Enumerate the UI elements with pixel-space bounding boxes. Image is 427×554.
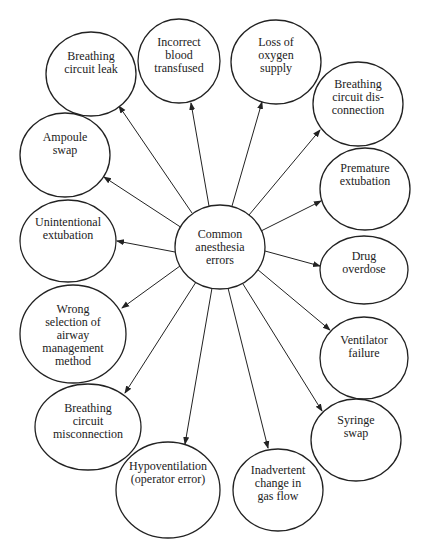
node-syringe-swap <box>311 399 401 481</box>
arrow-edge-loss-of-oxygen-supply <box>232 102 262 206</box>
label-line: method <box>55 355 91 368</box>
node-incorrect-blood-transfused-label: Incorrectbloodtransfused <box>138 36 220 75</box>
label-line: swap <box>344 427 369 440</box>
node-breathing-circuit-leak-label: Breathingcircuit leak <box>46 50 136 76</box>
label-line: connection <box>332 104 385 117</box>
node-hypoventilation <box>116 442 220 538</box>
node-unintentional-extubation-label: Unintentionalextubation <box>20 216 116 242</box>
label-line: Common <box>198 228 243 241</box>
center-node-common-anesthesia-errors-label: Commonanesthesiaerrors <box>175 228 265 267</box>
arrow-edge-hypoventilation <box>185 288 212 444</box>
arrow-edge-unintentional-extubation <box>117 241 175 252</box>
node-inadvertent-change-in-gas-flow-label: Inadvertentchange ingas flow <box>233 464 323 503</box>
node-drug-overdose-label: Drugoverdose <box>320 250 408 276</box>
label-line: misconnection <box>53 428 123 441</box>
label-line: (operator error) <box>131 473 205 486</box>
label-line: swap <box>53 144 78 157</box>
label-line: extubation <box>43 229 94 242</box>
node-premature-extubation-label: Prematureextubation <box>320 162 410 188</box>
node-ventilator-failure-label: Ventilatorfailure <box>320 334 408 360</box>
node-breathing-circuit-disconnection-label: Breathingcircuit dis-connection <box>313 78 403 117</box>
label-line: supply <box>260 62 292 75</box>
node-hypoventilation-label: Hypoventilation(operator error) <box>116 460 220 486</box>
label-line: circuit leak <box>64 63 118 76</box>
arrow-edge-ventilator-failure <box>257 269 330 330</box>
label-line: overdose <box>342 263 385 276</box>
arrow-edge-incorrect-blood-transfused <box>191 103 209 206</box>
label-line: transfused <box>154 62 203 75</box>
node-syringe-swap-label: Syringeswap <box>311 414 401 440</box>
node-ampoule-swap-label: Ampouleswap <box>20 131 110 157</box>
arrow-edge-inadvertent-change-in-gas-flow <box>228 288 268 448</box>
node-loss-of-oxygen-supply-label: Loss ofoxygensupply <box>231 36 321 75</box>
node-breathing-circuit-misconnection-label: Breathingcircuitmisconnection <box>35 402 141 441</box>
arrow-edge-syringe-swap <box>243 284 322 411</box>
arrow-edge-breathing-circuit-disconnection <box>249 130 320 215</box>
label-line: gas flow <box>258 490 299 503</box>
label-line: failure <box>348 347 379 360</box>
label-line: extubation <box>340 175 391 188</box>
arrow-edge-wrong-selection-airway <box>122 266 180 308</box>
label-line: anesthesia <box>195 241 244 254</box>
arrow-edge-breathing-circuit-leak <box>119 106 192 213</box>
arrow-edge-drug-overdose <box>265 251 320 266</box>
node-wrong-selection-airway-label: Wrongselection ofairwaymanagementmethod <box>20 303 126 368</box>
label-line: errors <box>206 254 234 267</box>
arrow-edge-premature-extubation <box>261 201 321 231</box>
anesthesia-errors-diagram: Breathingcircuit leakIncorrectbloodtrans… <box>0 0 427 554</box>
